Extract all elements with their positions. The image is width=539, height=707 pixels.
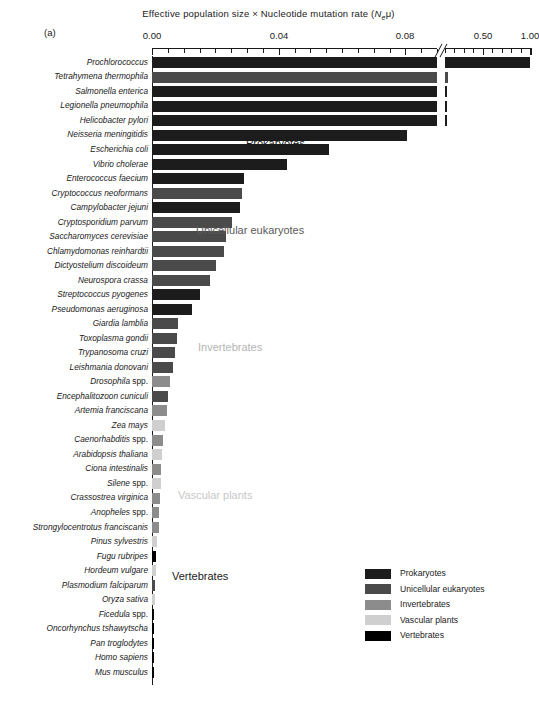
- axis-tick-minor: [184, 49, 185, 53]
- axis-tick-major: [405, 49, 406, 55]
- bar: [152, 493, 160, 504]
- chart-row: Ciona intestinalis: [0, 464, 537, 479]
- species-label: Mus musculus: [0, 668, 148, 676]
- species-label: Salmonella enterica: [0, 87, 148, 95]
- axis-tick-label: 0.00: [143, 30, 162, 41]
- axis-tick-label: 1.00: [521, 30, 539, 41]
- species-label: Chlamydomonas reinhardtii: [0, 247, 148, 255]
- species-label: Pseudomonas aeruginosa: [0, 305, 148, 313]
- species-label: Arabidopsis thaliana: [0, 450, 148, 458]
- species-label: Trypanosoma cruzi: [0, 348, 148, 356]
- species-label: Pan troglodytes: [0, 639, 148, 647]
- x-axis: 0.000.040.080.501.00: [0, 30, 537, 56]
- bar: [152, 289, 200, 300]
- legend-label: Unicellular eukaryotes: [400, 585, 485, 594]
- species-label: Neurospora crassa: [0, 276, 148, 284]
- bar: [152, 173, 244, 184]
- legend-item: Prokaryotes: [365, 566, 485, 582]
- chart-row: Anopheles spp.: [0, 507, 537, 522]
- bar: [152, 638, 154, 649]
- legend-label: Vertebrates: [400, 631, 444, 640]
- axis-tick-minor: [421, 49, 422, 53]
- chart-row: Campylobacter jejuni: [0, 202, 537, 217]
- species-label: Plasmodium falciparum: [0, 581, 148, 589]
- legend-swatch: [365, 569, 391, 579]
- axis-cap: [531, 48, 532, 55]
- bar: [152, 188, 242, 199]
- species-label: Vibrio cholerae: [0, 160, 148, 168]
- species-label: Ciona intestinalis: [0, 464, 148, 472]
- bar: [152, 202, 240, 213]
- species-label: Hordeum vulgare: [0, 566, 148, 574]
- axis-tick-label: 0.08: [396, 30, 415, 41]
- chart-row: Trypanosoma cruzi: [0, 347, 537, 362]
- chart-row: Silene spp.: [0, 478, 537, 493]
- species-label: Oryza sativa: [0, 595, 148, 603]
- species-label: Legionella pneumophila: [0, 101, 148, 109]
- bar: [152, 260, 216, 271]
- bar: [152, 391, 168, 402]
- bar: [152, 159, 287, 170]
- species-label: Zea mays: [0, 421, 148, 429]
- species-label: Ficedula spp.: [0, 610, 148, 618]
- axis-tick-minor: [358, 49, 359, 53]
- species-label: Escherichia coli: [0, 145, 148, 153]
- chart-row: Chlamydomonas reinhardtii: [0, 246, 537, 261]
- chart-row: Homo sapiens: [0, 652, 537, 667]
- axis-tick-minor: [492, 49, 493, 53]
- bar-continuation: [445, 72, 448, 83]
- species-label: Giardia lamblia: [0, 319, 148, 327]
- species-label: Encephalitozoon cuniculi: [0, 392, 148, 400]
- species-label: Campylobacter jejuni: [0, 203, 148, 211]
- chart-row: Encephalitozoon cuniculi: [0, 391, 537, 406]
- chart-row: Legionella pneumophila: [0, 101, 537, 116]
- axis-tick-minor: [511, 49, 512, 53]
- bar: [152, 522, 159, 533]
- chart-row: Salmonella enterica: [0, 86, 537, 101]
- species-label: Prochlorococcus: [0, 58, 148, 66]
- axis-line: [445, 48, 531, 49]
- bar: [152, 435, 163, 446]
- axis-tick-minor: [342, 49, 343, 53]
- bar: [152, 478, 161, 489]
- species-label: Drosophila spp.: [0, 377, 148, 385]
- axis-tick-minor: [231, 49, 232, 53]
- species-label: Homo sapiens: [0, 653, 148, 661]
- chart-row: Toxoplasma gondii: [0, 333, 537, 348]
- axis-break-icon: [435, 43, 449, 57]
- bar: [152, 304, 192, 315]
- legend-label: Vascular plants: [400, 616, 458, 625]
- species-label: Dictyostelium discoideum: [0, 261, 148, 269]
- axis-tick-minor: [263, 49, 264, 53]
- chart-row: Crassostrea virginica: [0, 493, 537, 508]
- bar-continuation: [445, 115, 447, 126]
- chart-row: Neurospora crassa: [0, 275, 537, 290]
- chart-row: Leishmania donovani: [0, 362, 537, 377]
- legend-swatch: [365, 600, 391, 610]
- axis-tick-major: [483, 49, 484, 55]
- chart-row: Arabidopsis thaliana: [0, 449, 537, 464]
- chart-row: Cryptococcus neoformans: [0, 188, 537, 203]
- bar: [152, 115, 437, 126]
- bar: [152, 464, 161, 475]
- species-label: Leishmania donovani: [0, 363, 148, 371]
- species-label: Crassostrea virginica: [0, 493, 148, 501]
- legend-item: Unicellular eukaryotes: [365, 582, 485, 598]
- bar: [152, 376, 170, 387]
- bar: [152, 57, 437, 68]
- axis-tick-minor: [473, 49, 474, 53]
- species-label: Cryptococcus neoformans: [0, 189, 148, 197]
- bar: [152, 275, 210, 286]
- axis-tick-minor: [464, 49, 465, 53]
- chart-row: Enterococcus faecium: [0, 173, 537, 188]
- legend: ProkaryotesUnicellular eukaryotesInverte…: [365, 566, 485, 644]
- chart-row: Zea mays: [0, 420, 537, 435]
- legend-item: Vertebrates: [365, 628, 485, 644]
- chart-row: Prochlorococcus: [0, 57, 537, 72]
- bar: [152, 594, 155, 605]
- axis-tick-minor: [310, 49, 311, 53]
- group-annotation: Unicellular eukaryotes: [196, 224, 304, 236]
- bar: [152, 623, 154, 634]
- bar-continuation: [445, 86, 447, 97]
- axis-tick-minor: [326, 49, 327, 53]
